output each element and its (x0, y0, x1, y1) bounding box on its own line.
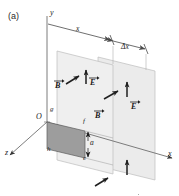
vertex-f-label: f (83, 118, 85, 125)
B-back-upper-label: B (95, 112, 179, 120)
vertex-e-label: e (83, 155, 86, 162)
figure-panel-a: (a) y x z O x Δx a g h f e B E B (0, 0, 179, 195)
z-axis-line (10, 122, 47, 155)
origin-label: O (36, 113, 42, 121)
y-axis-label: y (50, 9, 54, 17)
E-front-upper-label: E (90, 79, 179, 87)
vertex-h-label: h (47, 146, 51, 153)
dimension-x (48, 24, 114, 45)
dimension-a-label: a (90, 139, 94, 147)
vertex-g-label: g (50, 106, 54, 113)
vector-arrow-bar (89, 76, 179, 80)
x-axis-label: x (168, 150, 172, 158)
dimension-x-label: x (76, 25, 79, 33)
vector-arrow-bar (130, 194, 179, 196)
vector-arrow-bar (130, 100, 179, 104)
E-back-upper-label: E (131, 103, 179, 111)
panel-label: (a) (8, 12, 19, 21)
z-axis-label: z (5, 149, 8, 157)
dimension-delta-x-label: Δx (121, 43, 129, 51)
diagram-canvas (0, 0, 179, 195)
B-back-lower-arrow (95, 178, 108, 186)
